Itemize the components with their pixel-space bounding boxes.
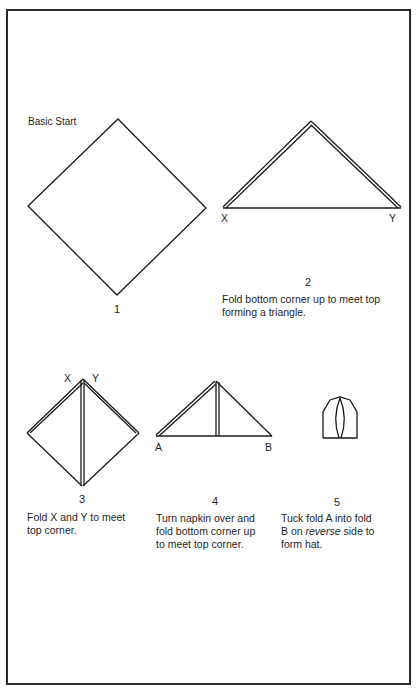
step-number-1: 1 (107, 303, 127, 315)
step-number-3: 3 (72, 493, 92, 505)
step3-label-y: Y (92, 372, 99, 384)
step5-hat-diagram (323, 397, 357, 438)
step2-label-x: X (221, 212, 228, 224)
step3-label-x: X (64, 372, 71, 384)
step-number-2: 2 (298, 276, 318, 288)
step-number-4: 4 (205, 495, 225, 507)
step1-square-diagram (28, 119, 206, 295)
step-number-5: 5 (327, 496, 347, 508)
diagram-art (0, 0, 418, 699)
step4-label-b: B (265, 441, 272, 453)
step3-caption: Fold X and Y to meet top corner. (27, 511, 125, 537)
step5-caption: Tuck fold A into fold B on reverse side … (281, 512, 374, 551)
step2-caption: Fold bottom corner up to meet top formin… (222, 293, 380, 319)
step4-label-a: A (155, 441, 162, 453)
step4-triangle-diagram (156, 381, 272, 436)
step2-label-y: Y (389, 212, 396, 224)
step4-caption: Turn napkin over and fold bottom corner … (156, 512, 255, 551)
step3-folded-diagram (27, 379, 139, 486)
step2-triangle-diagram (223, 121, 401, 208)
diagram-title: Basic Start (28, 116, 76, 127)
